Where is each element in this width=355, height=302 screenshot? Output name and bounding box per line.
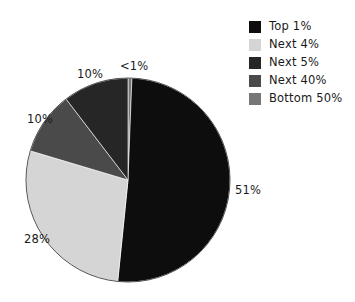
pie-slice-group [26,78,230,282]
legend-item-label: Top 1% [269,21,312,33]
chart-legend: Top 1%Next 4%Next 5%Next 40%Bottom 50% [249,18,355,108]
pie-slice [118,78,230,282]
legend-item-label: Next 5% [269,57,319,69]
pie-chart-area [0,0,240,302]
slice-label-next-5-percent: 10% [77,69,103,81]
slice-label-bottom-50-percent: <1% [120,61,148,73]
slice-label-next-4-percent: 28% [24,234,50,246]
legend-item[interactable]: Bottom 50% [249,90,355,108]
legend-item[interactable]: Top 1% [249,18,355,36]
legend-item[interactable]: Next 5% [249,54,355,72]
legend-swatch-icon [249,21,261,33]
legend-item-label: Next 4% [269,39,319,51]
slice-label-top-1-percent: 51% [235,185,261,197]
legend-item[interactable]: Next 4% [249,36,355,54]
pie-svg [0,0,240,302]
legend-swatch-icon [249,75,261,87]
legend-swatch-icon [249,39,261,51]
pie-chart-figure: 51% 28% 10% 10% <1% Top 1%Next 4%Next 5%… [0,0,355,302]
slice-label-next-40-percent: 10% [27,114,53,126]
legend-item-label: Next 40% [269,75,327,87]
legend-swatch-icon [249,93,261,105]
legend-item[interactable]: Next 40% [249,72,355,90]
legend-item-label: Bottom 50% [269,93,342,105]
legend-swatch-icon [249,57,261,69]
